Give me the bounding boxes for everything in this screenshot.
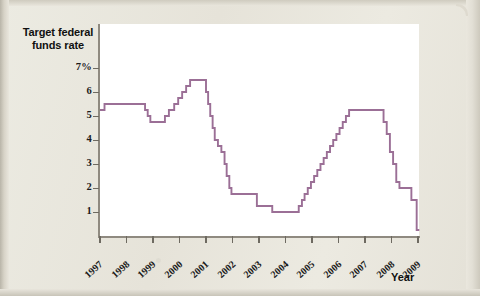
x-axis-title: Year	[391, 271, 414, 283]
series-plot	[0, 0, 480, 296]
chart-figure: Target federal funds rate 7%654321 19971…	[0, 0, 480, 296]
series-line-target-federal-funds-rate	[100, 80, 419, 230]
